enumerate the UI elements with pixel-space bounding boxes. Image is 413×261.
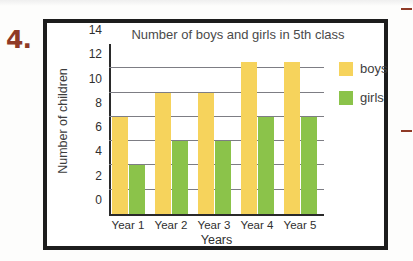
legend-swatch-boys bbox=[339, 62, 353, 76]
bar-chart: Number of boys and girls in 5th class Nu… bbox=[47, 23, 384, 246]
y-axis-tick: 10 bbox=[89, 71, 102, 85]
edge-dash-top bbox=[401, 8, 412, 10]
bar-girls bbox=[301, 117, 317, 214]
edge-dash-middle bbox=[401, 130, 412, 132]
bar-series-container: Year 1Year 2Year 3Year 4Year 5 bbox=[109, 44, 324, 214]
bar-group: Year 5 bbox=[283, 44, 317, 214]
bar-boys bbox=[284, 62, 300, 214]
x-axis-line bbox=[109, 214, 324, 216]
bar-girls bbox=[215, 141, 231, 214]
x-axis-tick: Year 3 bbox=[191, 219, 237, 231]
bar-girls bbox=[258, 117, 274, 214]
y-axis-tick: 4 bbox=[95, 144, 102, 158]
bar-boys bbox=[112, 117, 128, 214]
x-axis-label: Years bbox=[109, 233, 324, 247]
bar-group: Year 2 bbox=[154, 44, 188, 214]
legend-swatch-girls bbox=[339, 91, 353, 105]
legend-item-boys: boys bbox=[339, 61, 387, 76]
bar-girls bbox=[172, 141, 188, 214]
x-axis-tick: Year 1 bbox=[105, 219, 151, 231]
chart-legend: boys girls bbox=[339, 61, 387, 119]
y-axis-tick: 6 bbox=[95, 120, 102, 134]
y-axis-tick: 2 bbox=[95, 168, 102, 182]
y-axis-label: Number of children bbox=[56, 46, 70, 196]
y-axis-tick: 0 bbox=[95, 193, 102, 207]
bar-girls bbox=[129, 165, 145, 214]
y-axis-tick: 8 bbox=[95, 96, 102, 110]
y-axis-tick: 12 bbox=[89, 47, 102, 61]
chart-frame: Number of boys and girls in 5th class Nu… bbox=[43, 19, 388, 250]
x-axis-tick: Year 2 bbox=[148, 219, 194, 231]
question-number: 4. bbox=[6, 27, 31, 52]
bar-boys bbox=[198, 93, 214, 214]
plot-area: 02468101214 Year 1Year 2Year 3Year 4Year… bbox=[109, 44, 324, 216]
bar-boys bbox=[155, 93, 171, 214]
legend-label-boys: boys bbox=[360, 61, 387, 76]
legend-item-girls: girls bbox=[339, 90, 387, 105]
bar-group: Year 4 bbox=[240, 44, 274, 214]
legend-label-girls: girls bbox=[360, 90, 384, 105]
x-axis-tick: Year 5 bbox=[277, 219, 323, 231]
worksheet-page: 4. Number of boys and girls in 5th class… bbox=[0, 0, 413, 261]
y-axis-tick: 14 bbox=[89, 23, 102, 37]
x-axis-tick: Year 4 bbox=[234, 219, 280, 231]
chart-title: Number of boys and girls in 5th class bbox=[113, 27, 363, 42]
bar-group: Year 1 bbox=[111, 44, 145, 214]
scan-band bbox=[0, 0, 413, 6]
bar-group: Year 3 bbox=[197, 44, 231, 214]
bar-boys bbox=[241, 62, 257, 214]
